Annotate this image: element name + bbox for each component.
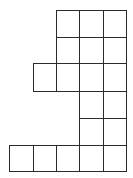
grid-cell (79, 145, 104, 172)
grid-cell (103, 37, 127, 64)
grid-cell (56, 10, 80, 38)
grid-cell (103, 91, 127, 119)
grid-cell (103, 10, 127, 38)
grid-cell (56, 37, 80, 64)
grid-cell (79, 63, 104, 92)
grid-cell (103, 145, 127, 172)
grid-cell (33, 145, 57, 172)
grid-cell (103, 118, 127, 146)
grid-cell (56, 145, 80, 172)
grid-cell (79, 118, 104, 146)
grid-cell (9, 145, 34, 172)
grid-cell (103, 63, 127, 92)
grid-cell (79, 37, 104, 64)
grid-cell (79, 10, 104, 38)
grid-cell (56, 63, 80, 92)
polyomino-grid (0, 0, 133, 178)
grid-cell (33, 63, 57, 92)
grid-cell (79, 91, 104, 119)
